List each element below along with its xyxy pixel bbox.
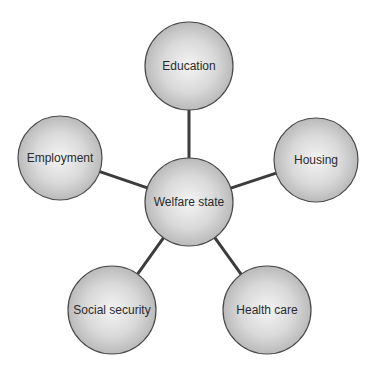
nodes: EducationHousingHealth careSocial securi… [18,22,358,354]
node-housing: Housing [274,118,358,202]
center-node-welfare-state-label: Welfare state [154,195,225,209]
connector-housing [231,173,276,188]
node-social-security-label: Social security [73,303,150,317]
node-education-label: Education [162,59,215,73]
connector-health-care [215,238,241,275]
node-health-care: Health care [223,266,311,354]
node-social-security: Social security [68,266,156,354]
node-employment: Employment [18,116,102,200]
node-education: Education [145,22,233,110]
center-node-welfare-state: Welfare state [145,158,233,246]
connector-social-security [138,238,164,274]
node-housing-label: Housing [294,153,338,167]
connector-employment [100,172,148,188]
node-employment-label: Employment [27,151,94,165]
welfare-state-diagram: EducationHousingHealth careSocial securi… [0,0,375,376]
node-health-care-label: Health care [236,303,298,317]
